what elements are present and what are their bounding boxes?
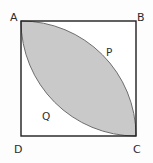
vertex-label-d: D [14,144,22,155]
figure-canvas [0,0,153,163]
region-label-p: P [106,47,112,58]
region-label-q: Q [42,111,50,122]
geometry-figure: A B C D P Q [0,0,153,163]
vertex-label-c: C [133,144,141,155]
vertex-label-b: B [137,12,145,23]
vertex-label-a: A [10,12,18,23]
